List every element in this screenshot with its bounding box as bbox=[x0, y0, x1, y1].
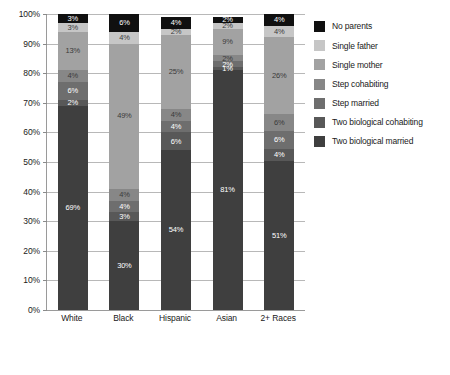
legend-label: Step married bbox=[332, 99, 379, 108]
bar-segment[interactable]: 3% bbox=[58, 14, 88, 23]
y-tick-label: 100% bbox=[19, 10, 40, 19]
y-tick-label: 90% bbox=[23, 39, 40, 48]
bar-segment-label: 4% bbox=[171, 19, 181, 27]
bar-segment[interactable]: 2% bbox=[213, 55, 243, 61]
bar-segment[interactable]: 2% bbox=[213, 17, 243, 23]
bar-segment[interactable]: 4% bbox=[109, 189, 139, 201]
bar-segment-label: 81% bbox=[220, 186, 234, 194]
legend-item[interactable]: Two biological cohabiting bbox=[314, 113, 450, 132]
bar-segment[interactable]: 13% bbox=[58, 32, 88, 70]
bar-segment-label: 4% bbox=[171, 111, 181, 119]
bar-segment[interactable]: 6% bbox=[264, 114, 294, 132]
legend-label: No parents bbox=[332, 22, 372, 31]
bar-segment[interactable]: 9% bbox=[213, 29, 243, 56]
bar-segment[interactable]: 4% bbox=[58, 70, 88, 82]
bar-segment-label: 4% bbox=[274, 16, 284, 24]
bar-segment[interactable]: 25% bbox=[161, 35, 191, 109]
bar-column[interactable]: 30%3%4%4%49%4%6% bbox=[109, 14, 139, 310]
bar-segment-label: 6% bbox=[68, 87, 78, 95]
legend-swatch-icon bbox=[314, 79, 325, 90]
bar-column[interactable]: 69%2%6%4%13%3%3% bbox=[58, 14, 88, 310]
bar-segment[interactable]: 4% bbox=[161, 121, 191, 133]
legend-swatch-icon bbox=[314, 21, 325, 32]
bar-segment-label: 4% bbox=[119, 34, 129, 42]
bar-segment-label: 9% bbox=[222, 38, 232, 46]
bar-segment[interactable]: 4% bbox=[264, 26, 294, 38]
legend-item[interactable]: Step cohabiting bbox=[314, 75, 450, 94]
bar-segment-label: 3% bbox=[119, 213, 129, 221]
bar-segment[interactable]: 54% bbox=[161, 150, 191, 310]
y-tick-label: 30% bbox=[23, 217, 40, 226]
y-tick-label: 50% bbox=[23, 158, 40, 167]
bar-segment[interactable]: 4% bbox=[264, 149, 294, 161]
bar-segment[interactable]: 6% bbox=[161, 132, 191, 150]
bar-segment[interactable]: 2% bbox=[58, 100, 88, 106]
bar-column[interactable]: 81%1%2%2%9%2%2% bbox=[213, 14, 243, 310]
bar-segment[interactable]: 3% bbox=[58, 23, 88, 32]
y-tick-label: 70% bbox=[23, 99, 40, 108]
bar-segment[interactable]: 4% bbox=[109, 32, 139, 44]
x-tick-label: 2+ Races bbox=[255, 314, 301, 323]
bar-segment-label: 3% bbox=[68, 24, 78, 32]
y-tick-label: 20% bbox=[23, 247, 40, 256]
bar-segment-label: 6% bbox=[119, 19, 129, 27]
legend-item[interactable]: Step married bbox=[314, 94, 450, 113]
bar-segment[interactable]: 3% bbox=[109, 212, 139, 221]
legend-item[interactable]: No parents bbox=[314, 17, 450, 36]
bar-segment[interactable]: 2% bbox=[161, 29, 191, 35]
bar-column[interactable]: 54%6%4%4%25%2%4% bbox=[161, 14, 191, 310]
bar-segment[interactable]: 81% bbox=[213, 70, 243, 310]
bar-segment[interactable]: 26% bbox=[264, 37, 294, 113]
bar-segment-label: 2% bbox=[171, 28, 181, 36]
bar-segment-label: 6% bbox=[274, 136, 284, 144]
legend-swatch-icon bbox=[314, 59, 325, 70]
bar-column[interactable]: 51%4%6%6%26%4%4% bbox=[264, 14, 294, 310]
bar-segment[interactable]: 4% bbox=[161, 109, 191, 121]
bar-segment-label: 54% bbox=[169, 226, 183, 234]
bar-segment-label: 4% bbox=[274, 151, 284, 159]
bar-segment[interactable]: 49% bbox=[109, 44, 139, 189]
bar-segment[interactable]: 6% bbox=[109, 14, 139, 32]
bar-segment-label: 30% bbox=[117, 262, 131, 270]
stacked-bar-chart: 0%10%20%30%40%50%60%70%80%90%100% 69%2%6… bbox=[0, 0, 450, 375]
bar-segment[interactable]: 30% bbox=[109, 221, 139, 310]
bar-segment[interactable]: 69% bbox=[58, 106, 88, 310]
bar-segment[interactable]: 4% bbox=[264, 14, 294, 26]
bar-segment[interactable]: 4% bbox=[109, 201, 139, 213]
y-tick-label: 10% bbox=[23, 276, 40, 285]
bar-segment[interactable]: 6% bbox=[264, 131, 294, 149]
plot-wrapper: 0%10%20%30%40%50%60%70%80%90%100% 69%2%6… bbox=[0, 14, 310, 334]
legend-label: Single mother bbox=[332, 61, 383, 70]
x-axis: WhiteBlackHispanicAsian2+ Races bbox=[46, 314, 304, 323]
bar-segment-label: 4% bbox=[119, 203, 129, 211]
y-tick-label: 80% bbox=[23, 69, 40, 78]
legend-swatch-icon bbox=[314, 117, 325, 128]
legend-label: Single father bbox=[332, 42, 378, 51]
y-tick-label: 0% bbox=[28, 306, 40, 315]
bar-segment-label: 49% bbox=[117, 112, 131, 120]
x-tick-label: Hispanic bbox=[152, 314, 198, 323]
x-tick-label: Black bbox=[100, 314, 146, 323]
x-tick-label: White bbox=[49, 314, 95, 323]
legend-label: Two biological cohabiting bbox=[332, 118, 423, 127]
bar-segment-label: 13% bbox=[66, 47, 80, 55]
y-axis: 0%10%20%30%40%50%60%70%80%90%100% bbox=[0, 14, 44, 310]
legend-item[interactable]: Single father bbox=[314, 36, 450, 55]
legend-swatch-icon bbox=[314, 40, 325, 51]
y-tick-label: 60% bbox=[23, 128, 40, 137]
bar-segment-label: 2% bbox=[68, 99, 78, 107]
plot-area: 69%2%6%4%13%3%3%30%3%4%4%49%4%6%54%6%4%4… bbox=[46, 14, 305, 311]
bar-segment-label: 26% bbox=[272, 72, 286, 80]
legend-item[interactable]: Two biological married bbox=[314, 132, 450, 151]
legend-swatch-icon bbox=[314, 136, 325, 147]
bar-segment-label: 2% bbox=[222, 55, 232, 63]
bar-segment-label: 51% bbox=[272, 232, 286, 240]
bar-segment[interactable]: 51% bbox=[264, 161, 294, 311]
bar-segment-label: 3% bbox=[68, 15, 78, 23]
x-tick-label: Asian bbox=[204, 314, 250, 323]
legend-item[interactable]: Single mother bbox=[314, 55, 450, 74]
bar-segment-label: 6% bbox=[274, 119, 284, 127]
bar-segment-label: 4% bbox=[119, 191, 129, 199]
legend-swatch-icon bbox=[314, 98, 325, 109]
legend-label: Step cohabiting bbox=[332, 80, 388, 89]
